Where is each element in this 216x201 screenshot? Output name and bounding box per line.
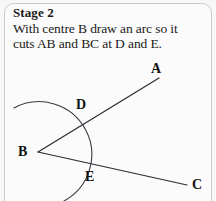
geometry-diagram [0, 0, 216, 201]
point-label-e: E [85, 170, 94, 184]
point-label-c: C [192, 178, 202, 192]
stage-card-screenshot: Stage 2 With centre B draw an arc so it … [0, 0, 216, 201]
segment-bc [38, 152, 187, 185]
point-label-d: D [76, 98, 86, 112]
point-label-b: B [18, 145, 27, 159]
segment-ba [38, 78, 159, 152]
point-label-a: A [151, 62, 161, 76]
